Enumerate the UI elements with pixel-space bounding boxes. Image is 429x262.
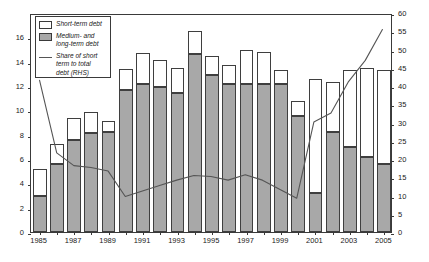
y-right-tick-5: 5: [398, 211, 402, 219]
legend-item-share-line: Share of short term to total debt (RHS): [39, 52, 107, 77]
y-right-tick-55: 55: [398, 28, 406, 36]
y-right-tick-0: 0: [398, 229, 402, 237]
tickmark-x: [281, 232, 282, 235]
tickmark-right: [391, 125, 394, 126]
x-tick-2001: 2001: [306, 236, 323, 245]
y-right-tick-10: 10: [398, 193, 406, 201]
tickmark-right: [391, 88, 394, 89]
tickmark-right: [391, 179, 394, 180]
tickmark-x: [195, 232, 196, 235]
y-right-tick-50: 50: [398, 47, 406, 55]
tickmark-x: [229, 232, 230, 235]
legend-item-medium-long-term: Medium- and long-term debt: [39, 32, 107, 49]
tickmark-right: [391, 33, 394, 34]
y-right-tick-45: 45: [398, 65, 406, 73]
y-right-tick-15: 15: [398, 174, 406, 182]
y-left-tick-4: 4: [6, 180, 24, 188]
tickmark-right: [391, 198, 394, 199]
x-tick-1991: 1991: [134, 236, 151, 245]
y-right-tick-25: 25: [398, 138, 406, 146]
tickmark-right: [391, 52, 394, 53]
y-right-tick-20: 20: [398, 156, 406, 164]
y-right-tick-30: 30: [398, 120, 406, 128]
x-tick-2005: 2005: [375, 236, 392, 245]
tickmark-x: [160, 232, 161, 235]
y-left-tick-10: 10: [6, 107, 24, 115]
chart-legend: Short-term debt Medium- and long-term de…: [35, 16, 111, 78]
tickmark-right: [391, 161, 394, 162]
y-right-tick-60: 60: [398, 10, 406, 18]
legend-item-short-term: Short-term debt: [39, 20, 107, 29]
legend-label-share-line1: Share of short: [56, 52, 97, 59]
tickmark-left: [28, 161, 31, 162]
tickmark-left: [28, 112, 31, 113]
legend-label-medium-long-term: Medium- and long-term debt: [56, 32, 99, 49]
tickmark-left: [28, 137, 31, 138]
tickmark-left: [28, 88, 31, 89]
y-left-tick-8: 8: [6, 132, 24, 140]
tickmark-x: [367, 232, 368, 235]
tickmark-x: [178, 232, 179, 235]
tickmark-x: [40, 232, 41, 235]
tickmark-right: [391, 216, 394, 217]
tickmark-x: [91, 232, 92, 235]
tickmark-left: [28, 210, 31, 211]
tickmark-x: [109, 232, 110, 235]
y-right-tick-35: 35: [398, 101, 406, 109]
y-left-tick-14: 14: [6, 59, 24, 67]
y-left-tick-6: 6: [6, 156, 24, 164]
legend-label-share-line3: debt (RHS): [56, 69, 89, 76]
tickmark-right: [391, 234, 394, 235]
tickmark-right: [391, 106, 394, 107]
legend-label-share-line2: term to total: [56, 60, 91, 67]
x-tick-1985: 1985: [30, 236, 47, 245]
x-tick-1993: 1993: [168, 236, 185, 245]
tickmark-left: [28, 185, 31, 186]
tickmark-x: [384, 232, 385, 235]
x-tick-2003: 2003: [341, 236, 358, 245]
tickmark-x: [126, 232, 127, 235]
tickmark-x: [143, 232, 144, 235]
chart-container: 0246810121416 051015202530354045505560 1…: [0, 0, 429, 262]
tickmark-x: [57, 232, 58, 235]
y-right-tick-40: 40: [398, 83, 406, 91]
y-left-tick-16: 16: [6, 34, 24, 42]
tickmark-left: [28, 234, 31, 235]
tickmark-x: [74, 232, 75, 235]
tickmark-x: [333, 232, 334, 235]
tickmark-x: [212, 232, 213, 235]
tickmark-x: [298, 232, 299, 235]
legend-swatch-short-term-icon: [39, 21, 52, 29]
tickmark-left: [28, 64, 31, 65]
tickmark-x: [350, 232, 351, 235]
legend-label-share: Share of short term to total debt (RHS): [56, 52, 97, 77]
tickmark-right: [391, 70, 394, 71]
legend-swatch-medium-long-term-icon: [39, 33, 52, 41]
y-left-tick-0: 0: [6, 229, 24, 237]
legend-label-mlt-line2: long-term debt: [56, 40, 99, 47]
tickmark-x: [247, 232, 248, 235]
legend-label-short-term: Short-term debt: [56, 20, 102, 28]
x-tick-1999: 1999: [272, 236, 289, 245]
caption-sliver: [8, 254, 308, 260]
x-tick-1987: 1987: [65, 236, 82, 245]
legend-label-mlt-line1: Medium- and: [56, 32, 94, 39]
tickmark-x: [264, 232, 265, 235]
tickmark-right: [391, 15, 394, 16]
y-left-tick-2: 2: [6, 205, 24, 213]
tickmark-right: [391, 143, 394, 144]
x-tick-1989: 1989: [99, 236, 116, 245]
tickmark-left: [28, 39, 31, 40]
y-left-tick-12: 12: [6, 83, 24, 91]
x-tick-1995: 1995: [203, 236, 220, 245]
legend-swatch-line-icon: [39, 53, 52, 61]
tickmark-x: [315, 232, 316, 235]
x-tick-1997: 1997: [237, 236, 254, 245]
